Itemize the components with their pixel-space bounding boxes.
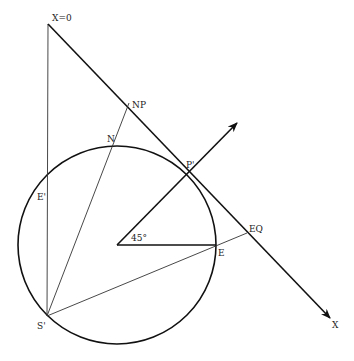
label-e-prime: E' [37,192,46,202]
label-s-prime: S' [37,321,46,331]
label-x: X [332,320,339,330]
label-eq: EQ [249,224,263,234]
label-x0: X=0 [52,13,72,23]
projection-line-np [47,103,129,316]
label-p-prime: P' [186,160,195,170]
ray-45-degree [117,123,237,245]
diagram-canvas: X=0 NP N P' E' EQ E S' X 45° [0,0,354,361]
label-e: E [218,248,225,258]
label-angle-45: 45° [131,233,147,243]
label-n: N [107,134,115,144]
projection-diagram: X=0 NP N P' E' EQ E S' X 45° [0,0,354,361]
label-np: NP [132,100,146,110]
vertical-line-x0 [47,24,48,316]
